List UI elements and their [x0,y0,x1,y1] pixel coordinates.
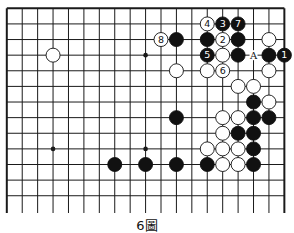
stones: 43782516 [46,17,291,172]
white-stone [216,158,230,172]
white-stone [169,64,183,78]
white-stone [262,64,276,78]
black-stone [247,158,261,172]
white-stone-move-2: 2 [216,33,230,47]
white-stone [262,95,276,109]
move-number: 7 [235,18,241,29]
black-stone [247,126,261,140]
black-stone [262,48,276,62]
white-stone-move-4: 4 [200,17,214,31]
black-stone [247,142,261,156]
move-number: 5 [204,49,210,60]
move-number: 4 [204,18,210,29]
markers: A [249,50,258,61]
star-point [143,53,148,58]
white-stone [216,48,230,62]
white-stone [231,111,245,125]
white-stone [200,142,214,156]
black-stone [139,158,153,172]
white-stone [231,142,245,156]
move-number: 6 [220,65,226,76]
white-stone-move-8: 8 [154,33,168,47]
move-number: 2 [220,34,226,45]
star-point [51,147,56,152]
star-point [143,147,148,152]
black-stone [262,111,276,125]
move-number: 1 [281,49,287,60]
white-stone [231,158,245,172]
black-stone [200,158,214,172]
black-stone [169,158,183,172]
white-stone [216,142,230,156]
black-stone [231,48,245,62]
white-stone [200,64,214,78]
black-stone [200,33,214,47]
white-stone-move-6: 6 [216,64,230,78]
black-stone [231,33,245,47]
black-stone-move-1: 1 [277,48,291,62]
go-board-diagram: 43782516 A [0,0,294,215]
white-stone [46,48,60,62]
black-stone [247,95,261,109]
black-stone [247,111,261,125]
move-number: 8 [158,34,164,45]
white-stone [216,126,230,140]
black-stone [169,111,183,125]
diagram-caption: 6圖 [0,215,294,233]
black-stone-move-7: 7 [231,17,245,31]
point-label-A: A [249,50,258,61]
white-stone [262,33,276,47]
black-stone-move-3: 3 [216,17,230,31]
white-stone [247,79,261,93]
black-stone [169,33,183,47]
black-stone [108,158,122,172]
white-stone [231,79,245,93]
white-stone [216,111,230,125]
black-stone-move-5: 5 [200,48,214,62]
black-stone [231,126,245,140]
move-number: 3 [220,18,226,29]
